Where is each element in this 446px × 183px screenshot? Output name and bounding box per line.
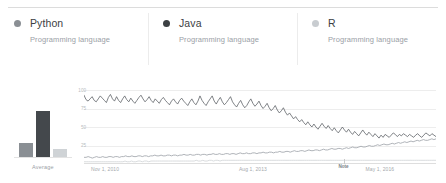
legend-subtitle: Programming language — [328, 35, 446, 45]
series-svg — [84, 84, 436, 164]
average-bar-chart: Average — [14, 90, 72, 170]
trends-line-plot[interactable]: 255075100 Note Nov 1, 2010Aug 1, 2013May… — [76, 84, 436, 176]
series-dot-icon — [163, 20, 170, 27]
legend-row: Python Programming language Java Program… — [0, 13, 446, 65]
average-bar — [19, 143, 33, 157]
trends-comparison-panel: Python Programming language Java Program… — [0, 0, 446, 183]
legend-title: Python — [30, 17, 63, 29]
legend-card-python[interactable]: Python Programming language — [0, 13, 148, 65]
legend-title: R — [328, 17, 336, 29]
legend-subtitle: Programming language — [179, 35, 297, 45]
legend-head: R — [312, 13, 446, 33]
legend-card-r[interactable]: R Programming language — [297, 13, 446, 65]
x-axis-tick-label: Aug 1, 2013 — [239, 166, 267, 173]
chart-area: Average 255075100 Note Nov 1, 2010Aug 1,… — [0, 76, 446, 183]
legend-head: Python — [14, 13, 148, 33]
average-bars — [19, 94, 67, 157]
series-line-java — [84, 94, 436, 138]
x-axis-tick-label: Nov 1, 2010 — [91, 166, 119, 173]
header-divider — [8, 7, 438, 8]
legend-subtitle: Programming language — [30, 35, 148, 45]
average-bar — [36, 111, 50, 157]
average-baseline — [14, 157, 72, 158]
series-line-python — [84, 139, 436, 158]
series-canvas — [84, 84, 436, 164]
legend-title: Java — [179, 17, 202, 29]
series-line-r — [84, 160, 436, 161]
x-axis-tick-label: May 1, 2016 — [366, 166, 395, 173]
legend-card-java[interactable]: Java Programming language — [148, 13, 297, 65]
legend-head: Java — [163, 13, 297, 33]
series-dot-icon — [14, 20, 21, 27]
series-dot-icon — [312, 20, 319, 27]
average-label: Average — [14, 164, 72, 170]
x-axis-labels: Nov 1, 2010Aug 1, 2013May 1, 2016 — [76, 166, 436, 176]
average-bar — [53, 149, 67, 157]
